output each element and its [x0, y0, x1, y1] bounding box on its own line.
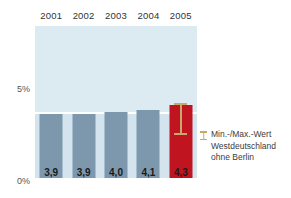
- category-label: 2002: [67, 8, 99, 24]
- chart-legend: Min.-/Max.-Wert Westdeutschland ohne Ber…: [200, 129, 288, 164]
- legend-text-line-2: Westdeutschland: [211, 141, 288, 153]
- bar-value-2005: 4,3: [165, 166, 197, 180]
- legend-text-line-3: ohne Berlin: [211, 152, 288, 164]
- chart-figure: 2001 2002 2003 2004 2005: [0, 0, 291, 198]
- error-bar-2005: [174, 103, 187, 135]
- category-label: 2004: [132, 8, 164, 24]
- category-axis-labels: 2001 2002 2003 2004 2005: [35, 8, 197, 24]
- error-bar-icon: [200, 131, 207, 140]
- bar-value-2001: 3,9: [35, 166, 67, 180]
- bar-slot: [67, 26, 99, 178]
- category-label: 2001: [35, 8, 67, 24]
- error-bar-icon-cap-bottom: [200, 139, 207, 141]
- error-bar-icon-cap-top: [200, 131, 207, 133]
- legend-text-line-1: Min.-/Max.-Wert: [211, 129, 271, 141]
- bar-slot: [100, 26, 132, 178]
- error-bar-stem: [180, 103, 182, 135]
- bar-value-2003: 4,0: [100, 166, 132, 180]
- bar-value-2002: 3,9: [67, 166, 99, 180]
- legend-entry: Min.-/Max.-Wert: [200, 129, 288, 141]
- bar-value-2004: 4,1: [132, 166, 164, 180]
- error-bar-cap-max: [174, 103, 187, 105]
- category-label: 2003: [100, 8, 132, 24]
- category-label: 2005: [165, 8, 197, 24]
- y-axis-label-0-percent: 0%: [2, 176, 30, 186]
- error-bar-cap-min: [174, 133, 187, 135]
- bar-slot: [165, 26, 197, 178]
- y-axis-label-5-percent: 5%: [2, 84, 30, 94]
- bar-value-labels: 3,9 3,9 4,0 4,1 4,3: [35, 166, 197, 180]
- bar-slot: [132, 26, 164, 178]
- bar-slot: [35, 26, 67, 178]
- plot-area: [35, 26, 197, 178]
- bar-series: [35, 26, 197, 178]
